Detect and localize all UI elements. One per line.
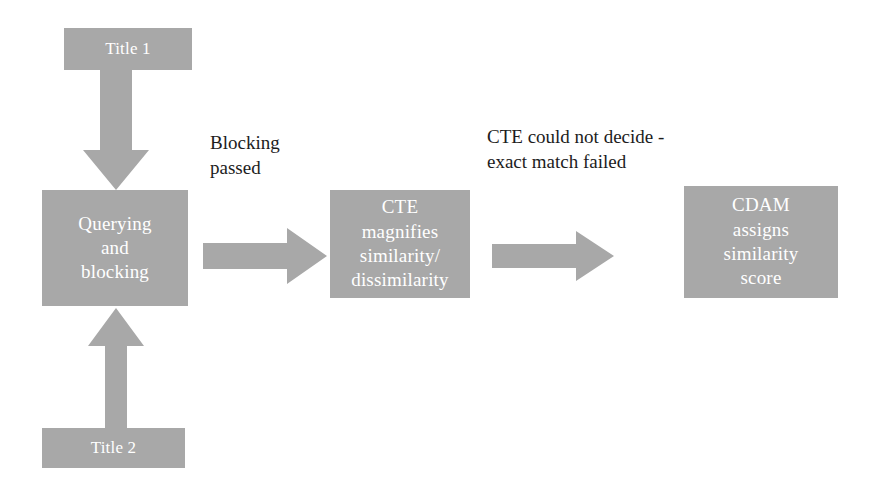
node-cte-magnifies: CTE magnifies similarity/ dissimilarity: [330, 190, 470, 298]
flowchart-canvas: Title 1 Querying and blocking Title 2 Bl…: [0, 0, 876, 496]
arrow-right-cte-to-cdam: [492, 231, 614, 281]
annotation-cte-could-not-decide: CTE could not decide - exact match faile…: [487, 124, 717, 174]
node-cdam-assigns-score: CDAM assigns similarity score: [684, 186, 838, 298]
arrow-down-title1-to-querying: [83, 70, 149, 190]
annotation-blocking-passed: Blocking passed: [210, 130, 360, 180]
node-title-1: Title 1: [64, 28, 192, 70]
arrow-right-querying-to-cte: [203, 228, 327, 284]
node-querying-and-blocking: Querying and blocking: [42, 190, 188, 306]
node-title-2: Title 2: [42, 428, 185, 468]
arrow-up-title2-to-querying: [88, 308, 144, 430]
